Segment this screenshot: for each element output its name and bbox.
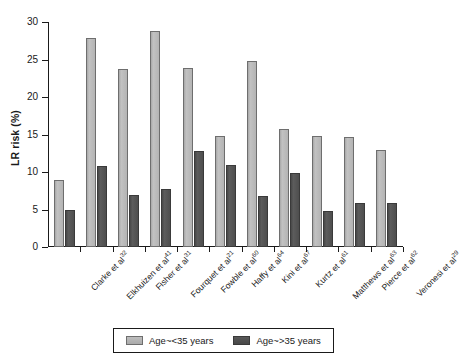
bar-group bbox=[338, 22, 370, 247]
bar-group bbox=[80, 22, 112, 247]
bar-age-under-35 bbox=[279, 129, 289, 247]
bar-age-under-35 bbox=[344, 137, 354, 247]
bar-group bbox=[306, 22, 338, 247]
y-axis-tick-label: 10 bbox=[27, 166, 38, 177]
x-axis-label-text: Kurtz et al bbox=[313, 255, 347, 289]
bar-age-over-35 bbox=[355, 203, 365, 247]
x-axis-label-text: Clarke et al bbox=[89, 255, 127, 293]
y-axis-tick-label: 5 bbox=[32, 204, 38, 215]
legend-swatch-dark bbox=[233, 336, 250, 345]
bar-age-over-35 bbox=[161, 189, 171, 248]
bar-age-under-35 bbox=[86, 38, 96, 247]
bar-group bbox=[242, 22, 274, 247]
x-axis-tick bbox=[403, 247, 404, 252]
y-axis-tick-label: 30 bbox=[27, 16, 38, 27]
bar-age-over-35 bbox=[129, 195, 139, 247]
bar-age-over-35 bbox=[194, 151, 204, 247]
plot-area: 051015202530 bbox=[48, 22, 403, 247]
y-axis-tick-label: 20 bbox=[27, 91, 38, 102]
bar-age-over-35 bbox=[387, 203, 397, 247]
legend-item: Age~<35 years bbox=[126, 335, 213, 346]
y-axis-tick: 0 bbox=[42, 247, 48, 248]
bar-age-over-35 bbox=[97, 166, 107, 247]
y-axis-title-text: LR risk (%) bbox=[9, 78, 21, 198]
bar-age-under-35 bbox=[215, 136, 225, 247]
chart-legend: Age~<35 yearsAge~>35 years bbox=[113, 328, 334, 353]
y-axis-tick-label: 25 bbox=[27, 54, 38, 65]
legend-label: Age~>35 years bbox=[256, 335, 320, 346]
bar-groups bbox=[48, 22, 403, 247]
bar-age-under-35 bbox=[183, 68, 193, 247]
bar-group bbox=[209, 22, 241, 247]
bar-age-over-35 bbox=[323, 211, 333, 247]
x-axis-label: Clarke et al32 bbox=[89, 250, 132, 293]
y-axis-tick-label: 0 bbox=[32, 241, 38, 252]
bar-age-under-35 bbox=[54, 180, 64, 247]
bar-age-under-35 bbox=[247, 61, 257, 247]
bar-age-under-35 bbox=[118, 69, 128, 248]
x-axis-label: Kurtz et al61 bbox=[313, 250, 352, 289]
bar-age-under-35 bbox=[150, 31, 160, 247]
bar-group bbox=[177, 22, 209, 247]
bar-age-over-35 bbox=[65, 210, 75, 247]
x-axis-labels: Clarke et al32Elkhuizen et al41Fisher et… bbox=[48, 250, 403, 312]
x-axis-label-text: Veronesi et al bbox=[414, 255, 458, 299]
bar-age-over-35 bbox=[226, 165, 236, 247]
y-axis-title: LR risk (%) bbox=[9, 0, 21, 78]
bar-group bbox=[113, 22, 145, 247]
bar-age-over-35 bbox=[258, 196, 268, 247]
bar-group bbox=[371, 22, 403, 247]
y-axis-tick-label: 15 bbox=[27, 129, 38, 140]
bar-age-under-35 bbox=[312, 136, 322, 247]
legend-label: Age~<35 years bbox=[149, 335, 213, 346]
bar-group bbox=[48, 22, 80, 247]
legend-item: Age~>35 years bbox=[233, 335, 320, 346]
bar-group bbox=[274, 22, 306, 247]
bar-age-over-35 bbox=[290, 173, 300, 247]
bar-age-under-35 bbox=[376, 150, 386, 247]
bar-group bbox=[145, 22, 177, 247]
legend-swatch-light bbox=[126, 336, 143, 345]
